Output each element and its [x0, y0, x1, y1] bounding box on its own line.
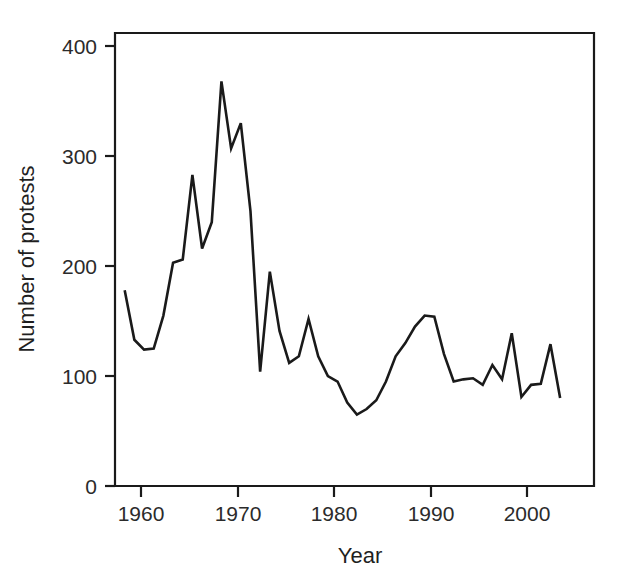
- y-tick-label-400: 400: [62, 35, 97, 58]
- y-tick-label-0: 0: [85, 475, 97, 498]
- chart-figure: 400 300 200 100 0 1960 1970 1980 1990 20…: [0, 0, 626, 585]
- x-tick-marks: [141, 486, 527, 497]
- y-tick-labels: 400 300 200 100 0: [62, 35, 97, 498]
- x-tick-labels: 1960 1970 1980 1990 2000: [118, 502, 551, 525]
- x-tick-label-2000: 2000: [504, 502, 551, 525]
- protest-count-line: [125, 81, 560, 414]
- x-axis-title: Year: [338, 543, 382, 568]
- y-tick-label-300: 300: [62, 145, 97, 168]
- x-tick-label-1990: 1990: [408, 502, 455, 525]
- x-tick-label-1970: 1970: [215, 502, 262, 525]
- x-tick-label-1980: 1980: [311, 502, 358, 525]
- line-chart: 400 300 200 100 0 1960 1970 1980 1990 20…: [0, 0, 626, 585]
- x-tick-label-1960: 1960: [118, 502, 165, 525]
- y-axis-title: Number of protests: [14, 165, 39, 352]
- y-tick-marks: [105, 46, 115, 486]
- plot-frame: [115, 33, 594, 486]
- y-tick-label-100: 100: [62, 365, 97, 388]
- y-tick-label-200: 200: [62, 255, 97, 278]
